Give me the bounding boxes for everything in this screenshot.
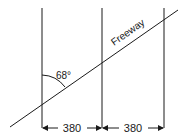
freeway-diagram: 68° Freeway 380 380: [0, 0, 181, 140]
angle-label: 68°: [56, 70, 71, 81]
spacing-label-1: 380: [63, 122, 81, 134]
spacing-label-2: 380: [124, 122, 142, 134]
freeway-label: Freeway: [109, 17, 147, 48]
freeway-line: [10, 10, 178, 127]
